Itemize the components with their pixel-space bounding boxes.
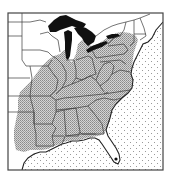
range-map (0, 0, 173, 180)
locality-marker (114, 157, 117, 160)
map-svg (0, 0, 173, 180)
